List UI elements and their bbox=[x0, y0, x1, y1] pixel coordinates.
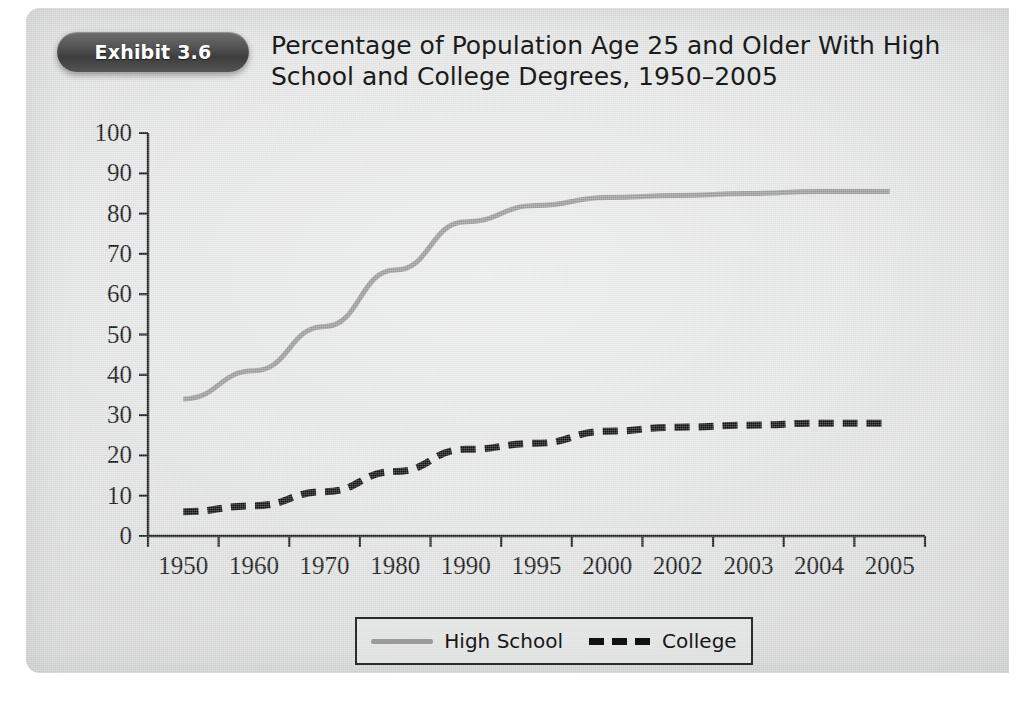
y-axis-tick-label: 40 bbox=[107, 361, 132, 388]
legend-swatch-solid-line-icon bbox=[371, 639, 433, 644]
legend-label-high-school: High School bbox=[444, 629, 563, 653]
exhibit-panel: 0102030405060708090100 19501960197019801… bbox=[26, 8, 1025, 673]
x-axis-tick-label: 1950 bbox=[158, 552, 208, 579]
x-axis-tick-label: 1990 bbox=[441, 552, 491, 579]
y-axis-tick-label: 50 bbox=[107, 321, 132, 348]
x-axis-tick-label: 1980 bbox=[370, 552, 420, 579]
x-axis-tick-label: 1995 bbox=[512, 552, 562, 579]
chart-figure: 0102030405060708090100 19501960197019801… bbox=[26, 8, 1025, 673]
x-axis-tick-label: 2002 bbox=[653, 552, 703, 579]
exhibit-page: 0102030405060708090100 19501960197019801… bbox=[0, 0, 1025, 703]
x-axis-tick-label: 2003 bbox=[723, 552, 773, 579]
x-axis-tick-label: 1960 bbox=[229, 552, 279, 579]
x-axis-tick-label: 2004 bbox=[794, 552, 845, 579]
y-axis-tick-label: 10 bbox=[107, 482, 132, 509]
y-axis-tick-label: 20 bbox=[107, 441, 132, 468]
y-axis: 0102030405060708090100 bbox=[95, 119, 149, 549]
x-axis-tick-label: 1970 bbox=[300, 552, 350, 579]
exhibit-title-line-1: Percentage of Population Age 25 and Olde… bbox=[271, 30, 971, 61]
exhibit-badge: Exhibit 3.6 bbox=[57, 32, 249, 72]
legend-label-college: College bbox=[662, 629, 737, 653]
page-right-margin bbox=[1009, 0, 1025, 703]
y-axis-tick-label: 30 bbox=[107, 401, 132, 428]
y-axis-tick-label: 0 bbox=[120, 522, 133, 549]
chart-legend: High School College bbox=[355, 617, 753, 665]
legend-swatch-dashed-line-icon bbox=[589, 638, 651, 645]
x-axis-tick-label: 2005 bbox=[865, 552, 915, 579]
data-series-high-school bbox=[183, 191, 889, 399]
y-axis-tick-label: 80 bbox=[107, 200, 132, 227]
data-series-group bbox=[183, 191, 889, 511]
legend-item-college: College bbox=[589, 629, 737, 653]
x-axis-tick-label: 2000 bbox=[582, 552, 632, 579]
y-axis-tick-label: 70 bbox=[107, 240, 132, 267]
exhibit-title: Percentage of Population Age 25 and Olde… bbox=[271, 30, 971, 92]
y-axis-tick-label: 90 bbox=[107, 159, 132, 186]
y-axis-tick-label: 100 bbox=[95, 119, 133, 146]
x-axis: 1950196019701980199019952000200220032004… bbox=[148, 536, 925, 579]
y-axis-tick-label: 60 bbox=[107, 280, 132, 307]
exhibit-title-line-2: School and College Degrees, 1950–2005 bbox=[271, 61, 971, 92]
legend-item-high-school: High School bbox=[371, 629, 563, 653]
line-chart-svg: 0102030405060708090100 19501960197019801… bbox=[26, 8, 1025, 673]
data-series-college bbox=[183, 423, 889, 512]
exhibit-badge-label: Exhibit 3.6 bbox=[95, 41, 212, 63]
